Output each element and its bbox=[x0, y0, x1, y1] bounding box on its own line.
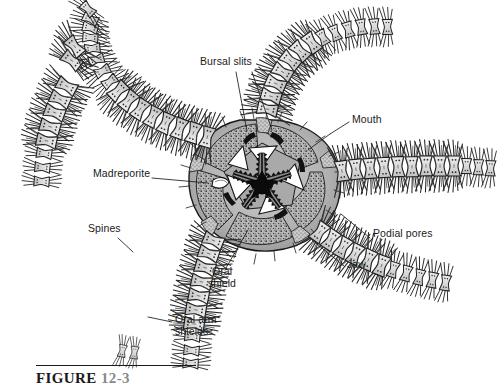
label-spines: Spines bbox=[88, 223, 121, 235]
figure-caption-prefix: FIGURE bbox=[36, 370, 97, 384]
label-oral-shield: Oral shield bbox=[200, 266, 244, 289]
label-bursal-slits: Bursal slits bbox=[200, 56, 252, 68]
label-mouth: Mouth bbox=[352, 114, 382, 126]
figure-caption-number: 12-3 bbox=[101, 370, 130, 384]
figure-caption: FIGURE 12-3 bbox=[36, 370, 130, 384]
label-oral-arm-shields: Oral arm shields bbox=[175, 314, 217, 337]
label-podial-pores: Podial pores bbox=[373, 228, 433, 240]
figure-canvas: Bursal slits Mouth Madreporite Spines Po… bbox=[0, 0, 497, 384]
caption-rule bbox=[36, 365, 196, 366]
label-madreporite: Madreporite bbox=[93, 168, 150, 180]
label-jaw: Jaw bbox=[347, 259, 366, 271]
